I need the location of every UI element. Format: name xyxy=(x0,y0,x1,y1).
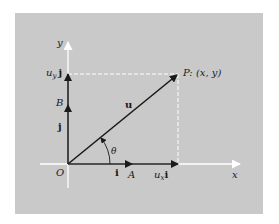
vector-u xyxy=(68,75,177,164)
x-axis-label: x xyxy=(232,170,238,180)
point-p-label: P: (x, y) xyxy=(183,68,221,78)
point-a-label: A xyxy=(128,170,135,180)
angle-theta-label: θ xyxy=(111,147,116,156)
uy-j-label: uy j xyxy=(46,68,62,80)
ux-i-label: uxi xyxy=(154,170,168,182)
vector-i-arrowhead xyxy=(125,160,133,168)
y-axis-label: y xyxy=(57,38,63,48)
angle-arc xyxy=(101,138,110,164)
vector-u-label: u xyxy=(125,100,132,110)
vector-diagram xyxy=(0,0,279,224)
unit-i-label: i xyxy=(115,168,119,178)
unit-j-label: j xyxy=(58,122,62,132)
vector-j-arrowhead xyxy=(64,104,72,112)
point-b-label: B xyxy=(56,98,63,108)
origin-label: O xyxy=(56,168,64,178)
